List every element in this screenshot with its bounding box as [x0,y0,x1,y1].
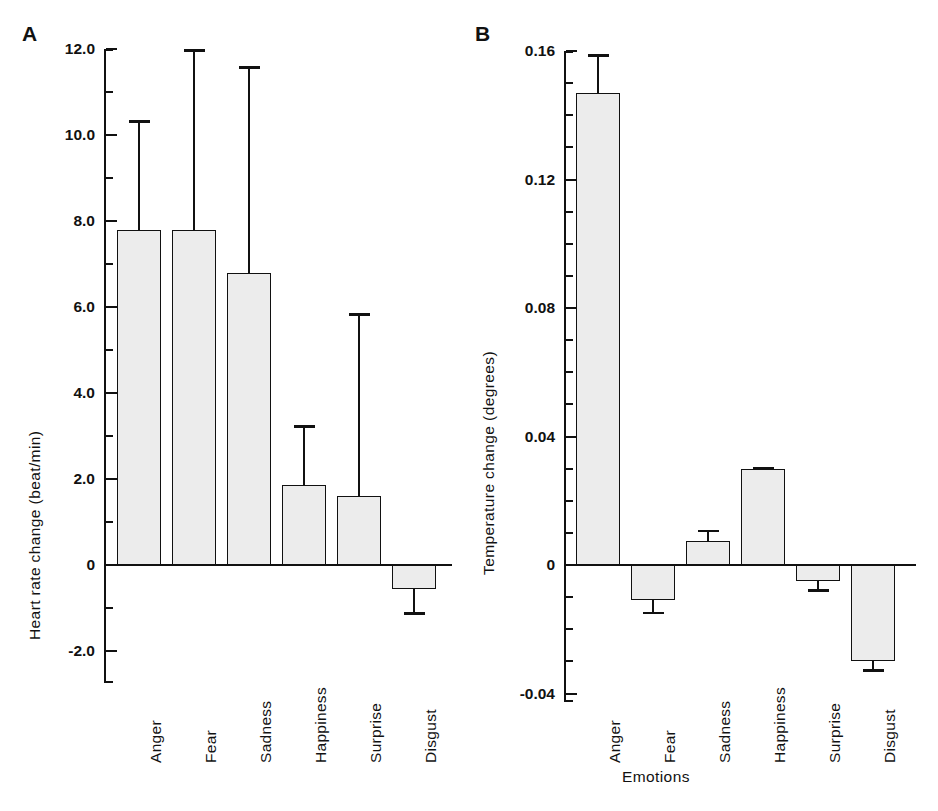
error-bar-stem-surprise [817,581,819,589]
y-axis-tick-label: 0 [495,556,555,574]
y-axis-tick-label: -2.0 [47,642,95,660]
error-bar-stem-anger [138,120,140,230]
y-axis-tick-label: -0.04 [495,685,555,703]
error-bar-cap-surprise [808,589,829,592]
y-axis-major-tick [106,478,117,480]
y-axis-minor-tick [106,91,113,93]
bar-sadness [686,541,730,565]
y-axis-major-tick [106,48,117,50]
panel-b-letter: B [475,22,490,46]
y-axis-tick-label: 0 [47,556,95,574]
panel-a-y-axis-label: Heart rate change (beat/min) [26,431,44,640]
y-axis-minor-tick [566,243,573,245]
category-label-surprise: Surprise [826,703,844,763]
y-axis-major-tick [566,693,577,695]
bar-happiness [282,485,326,565]
figure-two-panel-bar-chart: A Heart rate change (beat/min) 12.010.08… [0,0,938,811]
y-axis-minor-tick [106,521,113,523]
y-axis-major-tick [106,220,117,222]
y-axis-minor-tick [566,146,573,148]
error-bar-cap-happiness [753,467,774,470]
error-bar-stem-fear [193,49,195,230]
y-axis-minor-tick [106,177,113,179]
error-bar-stem-disgust [872,661,874,669]
y-axis-minor-tick [566,275,573,277]
bar-fear [631,565,675,600]
y-axis-line [564,51,566,702]
bar-sadness [227,273,271,565]
error-bar-cap-sadness [698,530,719,533]
y-axis-minor-tick [566,371,573,373]
bar-fear [172,230,216,565]
error-bar-cap-anger [588,54,609,57]
error-bar-cap-fear [184,49,205,52]
y-axis-minor-tick [566,468,573,470]
y-axis-tick-label: 0.08 [495,299,555,317]
error-bar-stem-sadness [248,66,250,272]
error-bar-stem-surprise [358,313,360,496]
y-axis-minor-tick [106,263,113,265]
panel-b: B Temperature change (degrees) 0.160.120… [460,0,938,811]
bar-surprise [796,565,840,581]
bar-disgust [392,565,436,589]
y-axis-bottom-cap [564,700,573,702]
error-bar-cap-disgust [404,612,425,615]
category-label-disgust: Disgust [881,709,899,763]
y-axis-tick-label: 8.0 [47,212,95,230]
bar-surprise [337,496,381,565]
y-axis-major-tick [106,306,117,308]
y-axis-tick-label: 0.04 [495,428,555,446]
y-axis-minor-tick [106,349,113,351]
panel-a-letter: A [22,22,37,46]
y-axis-minor-tick [566,82,573,84]
error-bar-cap-sadness [239,66,260,69]
error-bar-stem-disgust [413,589,415,613]
y-axis-major-tick [106,650,117,652]
y-axis-minor-tick [566,596,573,598]
error-bar-cap-surprise [349,313,370,316]
bar-anger [576,93,620,565]
category-label-surprise: Surprise [367,703,385,763]
category-label-fear: Fear [661,730,679,763]
y-axis-minor-tick [566,403,573,405]
error-bar-cap-fear [643,612,664,615]
category-label-happiness: Happiness [312,687,330,763]
y-axis-tick-label: 0.12 [495,171,555,189]
y-axis-minor-tick [566,339,573,341]
bar-happiness [741,469,785,565]
y-axis-minor-tick [566,114,573,116]
y-axis-minor-tick [566,211,573,213]
error-bar-stem-fear [652,600,654,611]
bar-anger [117,230,161,565]
y-axis-major-tick [106,392,117,394]
y-axis-minor-tick [566,628,573,630]
panel-b-y-axis-label: Temperature change (degrees) [480,351,498,575]
error-bar-stem-anger [597,54,599,93]
error-bar-stem-happiness [303,425,305,485]
y-axis-line [104,49,106,683]
y-axis-minor-tick [566,660,573,662]
category-label-anger: Anger [606,720,624,763]
category-label-sadness: Sadness [716,701,734,763]
y-axis-minor-tick [566,500,573,502]
error-bar-cap-disgust [863,669,884,672]
y-axis-tick-label: 2.0 [47,470,95,488]
y-axis-bottom-cap [104,681,113,683]
y-axis-major-tick [566,50,577,52]
bar-disgust [851,565,895,661]
y-axis-tick-label: 6.0 [47,298,95,316]
error-bar-cap-happiness [294,425,315,428]
y-axis-tick-label: 4.0 [47,384,95,402]
error-bar-cap-anger [129,120,150,123]
y-axis-tick-label: 12.0 [47,40,95,58]
category-label-fear: Fear [202,730,220,763]
y-axis-tick-label: 0.16 [495,42,555,60]
category-label-sadness: Sadness [257,701,275,763]
category-label-anger: Anger [147,720,165,763]
panel-a: A Heart rate change (beat/min) 12.010.08… [0,0,470,811]
category-label-happiness: Happiness [771,687,789,763]
y-axis-minor-tick [106,607,113,609]
y-axis-tick-label: 10.0 [47,126,95,144]
y-axis-major-tick [106,134,117,136]
y-axis-minor-tick [106,435,113,437]
